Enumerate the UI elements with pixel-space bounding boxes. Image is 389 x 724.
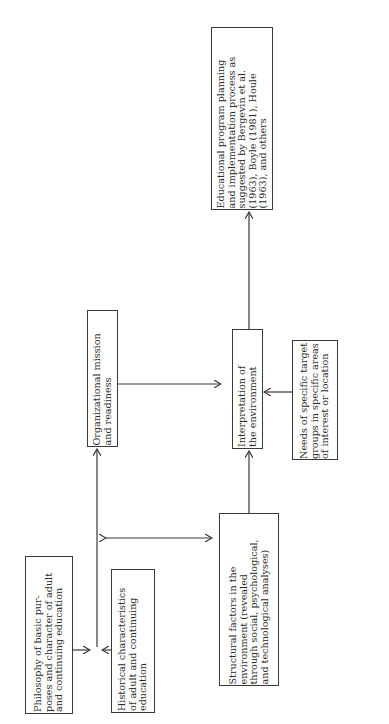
flow-diagram: Philosophy of basic pur- poses and chara…	[0, 0, 389, 724]
node-structural-text: Structural factors in the environment (r…	[228, 515, 270, 684]
node-historical-text: Historical characteristics of adult and …	[117, 571, 149, 711]
node-interpretation-text: Interpretation of the environment	[237, 331, 258, 447]
node-historical: Historical characteristics of adult and …	[111, 569, 155, 713]
node-educational-text: Educational program planning and impleme…	[216, 29, 269, 208]
node-needs-text: Needs of specific target groups in speci…	[299, 341, 331, 459]
node-organizational-text: Organizational mission and readiness	[92, 312, 113, 445]
node-needs: Needs of specific target groups in speci…	[292, 340, 338, 460]
node-interpretation: Interpretation of the environment	[232, 329, 263, 449]
node-structural: Structural factors in the environment (r…	[219, 513, 279, 686]
node-educational: Educational program planning and impleme…	[211, 27, 273, 210]
node-philosophy: Philosophy of basic pur- poses and chara…	[25, 556, 73, 714]
node-organizational: Organizational mission and readiness	[87, 310, 118, 447]
node-philosophy-text: Philosophy of basic pur- poses and chara…	[33, 558, 65, 712]
